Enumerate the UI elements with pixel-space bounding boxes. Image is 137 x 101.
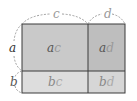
area-model-diagram: c d a b ac ad bc bd (0, 0, 137, 101)
dim-label-c: c (53, 7, 60, 21)
cell-label-bd: bd (99, 75, 115, 89)
dim-label-d: d (104, 7, 112, 21)
cell-label-bc: bc (48, 75, 63, 89)
dim-label-b: b (10, 75, 18, 89)
cell-label-ad: ad (99, 41, 114, 55)
dim-label-a: a (9, 41, 16, 55)
cell-label-ac: ac (47, 41, 61, 55)
